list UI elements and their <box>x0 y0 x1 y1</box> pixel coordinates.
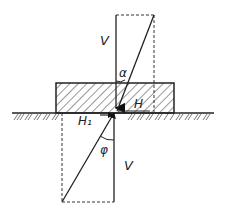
force-diagram: V α H H₁ φ V <box>0 0 227 215</box>
alpha-arc <box>116 80 125 82</box>
label-lower-v: V <box>124 158 134 173</box>
ground-hatch-right <box>128 114 210 120</box>
label-h1: H₁ <box>78 114 92 128</box>
label-alpha: α <box>119 66 127 80</box>
label-h: H <box>134 97 143 111</box>
block <box>56 83 174 113</box>
phi-arc <box>100 136 114 140</box>
label-upper-v: V <box>100 33 110 48</box>
label-phi: φ <box>100 143 108 157</box>
ground-hatch-left <box>14 114 59 120</box>
